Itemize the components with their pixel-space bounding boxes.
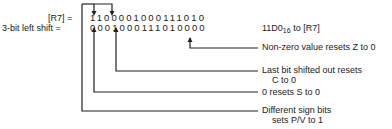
result-label: 11D016 to [R7] [262,23,320,34]
annotation-c-flag-line2: C to 0 [272,75,296,85]
register-label: [R7] = [48,13,72,23]
result-base: 16 [283,27,291,34]
annotation-s-flag: 0 resets S to 0 [262,87,320,97]
result-suffix: to [R7] [291,23,320,33]
annotation-c-flag: Last bit shifted out resets [262,65,362,75]
result-value: 11D0 [262,23,283,33]
annotation-pv-flag-line2: sets P/V to 1 [272,115,323,125]
shifted-bits: 0001000111010000 [90,22,207,33]
annotation-z-flag: Non-zero value resets Z to 0 [262,42,376,52]
shift-label: 3-bit left shift = [2,23,61,33]
annotation-pv-flag: Different sign bits [262,105,331,115]
